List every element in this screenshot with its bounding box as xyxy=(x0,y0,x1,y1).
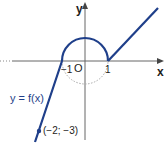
point-label: (−2; −3) xyxy=(43,126,78,136)
right-line-ray xyxy=(108,8,158,61)
function-graph: y x O −1 1 y = f(x) (−2; −3) xyxy=(0,0,167,145)
origin-label: O xyxy=(74,63,83,74)
point-marker xyxy=(37,129,41,133)
y-axis-label: y xyxy=(76,3,83,15)
function-label: y = f(x) xyxy=(10,93,44,104)
x-axis-label: x xyxy=(157,66,164,78)
tick-label-neg-one: −1 xyxy=(61,65,72,75)
tick-label-one: 1 xyxy=(105,65,111,75)
x-axis-arrow-icon xyxy=(157,58,164,64)
graph-canvas xyxy=(0,0,167,145)
